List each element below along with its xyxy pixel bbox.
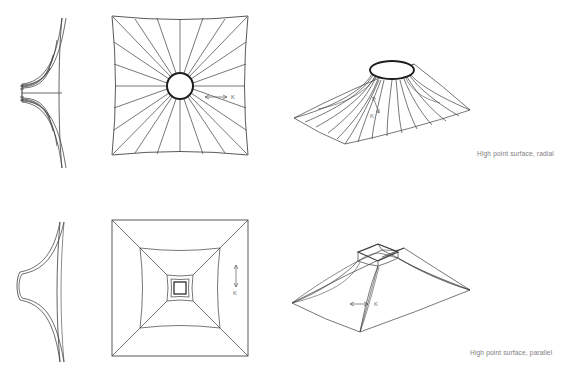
k-label-plan-parallel: K (233, 290, 237, 296)
isometric-radial-high-point-ring (370, 61, 414, 79)
caption-high-point-surface-parallel: High point surface, parallel (470, 349, 552, 356)
elevation-parallel (17, 222, 64, 362)
k-arrow-plan-parallel (234, 265, 238, 287)
plan-radial (112, 16, 248, 155)
k-arrow-plan-radial (205, 95, 227, 99)
caption-high-point-surface-radial: High point surface, radial (477, 150, 554, 157)
k-label-plan-radial: K (231, 94, 235, 100)
isometric-radial (294, 61, 470, 144)
k-arrow-iso-parallel (350, 302, 368, 306)
plan-radial-high-point-ring (167, 73, 193, 99)
k-label-isometric-parallel: K (374, 301, 378, 307)
isometric-parallel (292, 244, 470, 332)
row-radial (20, 16, 470, 168)
plan-parallel (112, 220, 248, 356)
elevation-radial (20, 18, 66, 168)
row-parallel (17, 220, 470, 362)
high-point-surface-figure (0, 0, 578, 370)
plan-parallel-high-point-ring (174, 282, 186, 294)
k-label-isometric-radial: K (370, 113, 374, 119)
